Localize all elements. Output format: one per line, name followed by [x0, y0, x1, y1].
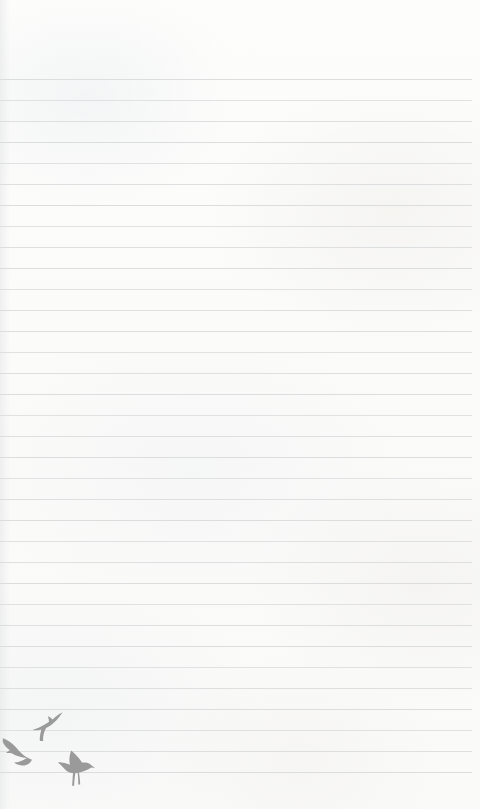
bird-lower-perched-icon	[58, 750, 96, 786]
bird-upper-right-icon	[31, 711, 64, 741]
bird-left-icon	[2, 738, 32, 766]
writing-area[interactable]	[0, 79, 472, 777]
bird-decoration-group	[0, 689, 160, 809]
notepaper-page	[0, 0, 480, 809]
